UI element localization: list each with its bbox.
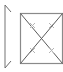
thumbnail-left[interactable]: image placeholder (0, 0, 14, 72)
image-placeholder-icon (18, 10, 63, 66)
image-placeholder-icon (0, 0, 14, 72)
thumbnail-right[interactable]: image placeholder (18, 10, 63, 66)
